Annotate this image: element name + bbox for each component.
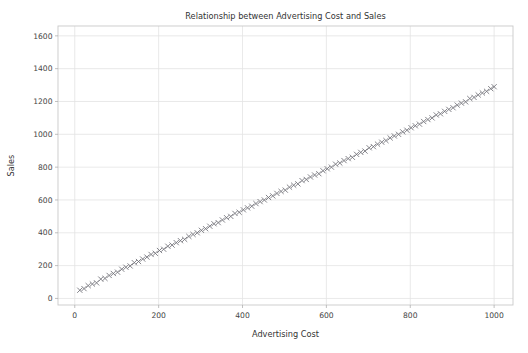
x-tick-label: 200 bbox=[151, 311, 166, 320]
figure-canvas: 02004006008001000120014001600 0200400600… bbox=[0, 0, 528, 353]
y-tick-label: 600 bbox=[38, 196, 53, 205]
x-tick-label: 0 bbox=[72, 311, 77, 320]
y-tick-label: 0 bbox=[48, 294, 53, 303]
y-tick-label: 1000 bbox=[33, 130, 52, 139]
y-axis-label: Sales bbox=[6, 155, 16, 177]
y-tick-label: 1400 bbox=[33, 64, 52, 73]
scatter-chart: 02004006008001000120014001600 0200400600… bbox=[0, 0, 528, 353]
y-tick-label: 800 bbox=[38, 163, 53, 172]
x-tick-label: 1000 bbox=[484, 311, 503, 320]
x-axis-label: Advertising Cost bbox=[252, 329, 320, 339]
plot-area-background bbox=[58, 26, 513, 305]
y-tick-label: 400 bbox=[38, 228, 53, 237]
y-tick-label: 1200 bbox=[33, 97, 52, 106]
y-tick-label: 200 bbox=[38, 261, 53, 270]
x-tick-label: 600 bbox=[319, 311, 334, 320]
x-tick-label: 400 bbox=[235, 311, 250, 320]
y-tick-label: 1600 bbox=[33, 32, 52, 41]
x-tick-label: 800 bbox=[403, 311, 418, 320]
chart-title: Relationship between Advertising Cost an… bbox=[185, 11, 385, 21]
